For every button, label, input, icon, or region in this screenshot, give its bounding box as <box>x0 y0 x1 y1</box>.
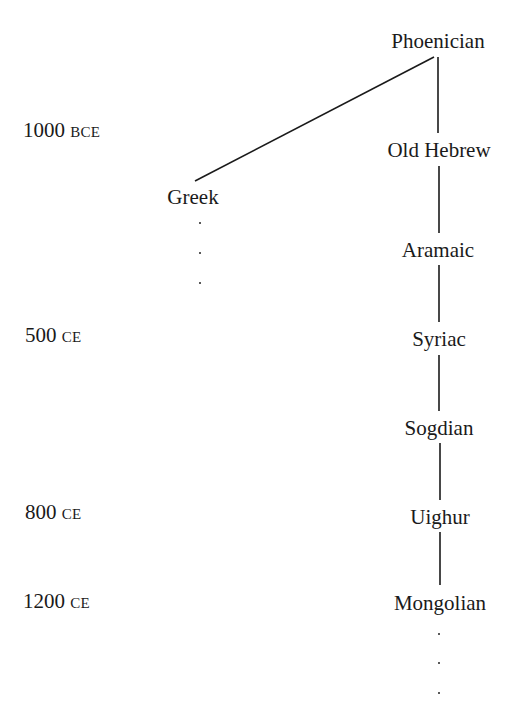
node-uighur: Uighur <box>410 507 470 528</box>
continuation-dot <box>199 282 201 284</box>
continuation-dot <box>438 633 440 635</box>
continuation-dot <box>199 252 201 254</box>
node-syriac: Syriac <box>412 329 466 350</box>
continuation-dot <box>438 662 440 664</box>
continuation-dot <box>199 222 201 224</box>
edge-phoenician-greek <box>195 57 434 181</box>
node-aramaic: Aramaic <box>402 240 474 261</box>
node-greek: Greek <box>167 187 218 208</box>
node-sogdian: Sogdian <box>405 418 474 439</box>
node-phoenician: Phoenician <box>391 31 484 52</box>
node-mongolian: Mongolian <box>394 593 486 614</box>
continuation-dot <box>438 692 440 694</box>
node-old-hebrew: Old Hebrew <box>387 140 490 161</box>
